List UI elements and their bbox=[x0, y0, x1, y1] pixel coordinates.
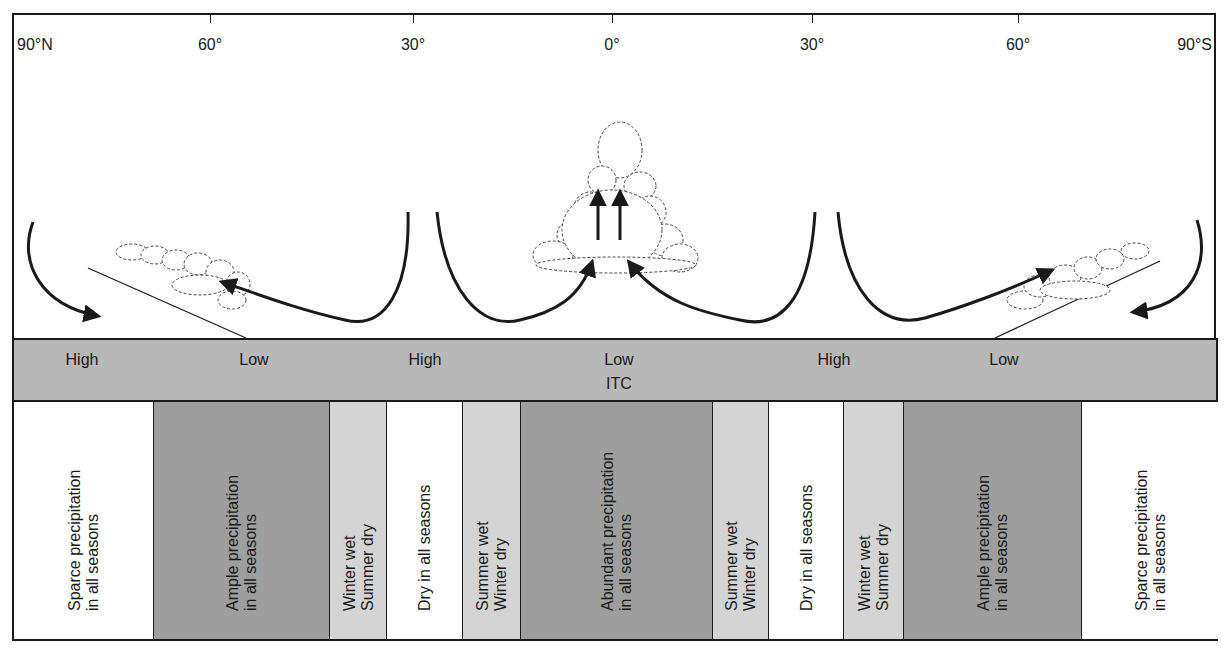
zone-label-line: Abundant precipitation bbox=[599, 452, 617, 611]
circulation-diagram bbox=[0, 0, 1230, 340]
precipitation-zone: Winter wetSummer dry bbox=[844, 402, 904, 639]
zone-label: Summer wetWinter dry bbox=[723, 521, 759, 611]
precipitation-zone: Sparce precipitationin all seasons bbox=[14, 402, 154, 639]
zone-label-line: Summer wet bbox=[723, 521, 741, 611]
zone-label-line: Ample precipitation bbox=[975, 475, 993, 611]
precipitation-zone: Sparce precipitationin all seasons bbox=[1082, 402, 1220, 639]
zone-label-line: Winter dry bbox=[492, 521, 510, 611]
zone-label: Ample precipitationin all seasons bbox=[975, 475, 1011, 611]
zone-label-line: in all seasons bbox=[993, 475, 1011, 611]
precipitation-zone: Summer wetWinter dry bbox=[713, 402, 769, 639]
zone-label: Summer wetWinter dry bbox=[474, 521, 510, 611]
zone-label: Ample precipitationin all seasons bbox=[224, 475, 260, 611]
pressure-label-high: High bbox=[818, 351, 851, 369]
zone-label-line: Summer wet bbox=[474, 521, 492, 611]
pressure-label-low: Low bbox=[989, 351, 1018, 369]
itc-label: ITC bbox=[606, 375, 632, 393]
zone-label-line: Sparce precipitation bbox=[66, 470, 84, 611]
precipitation-zone: Ample precipitationin all seasons bbox=[904, 402, 1082, 639]
pressure-label-high: High bbox=[66, 351, 99, 369]
zone-label-line: Winter dry bbox=[741, 521, 759, 611]
zone-label-line: Winter wet bbox=[856, 524, 874, 611]
zone-label-line: in all seasons bbox=[84, 470, 102, 611]
precipitation-zones: Sparce precipitationin all seasonsAmple … bbox=[12, 402, 1218, 641]
zone-label-line: Sparce precipitation bbox=[1133, 470, 1151, 611]
precipitation-zone: Winter wetSummer dry bbox=[330, 402, 387, 639]
pressure-belt-band: HighLowHighLowHighLowITC bbox=[12, 338, 1218, 402]
precipitation-zone: Dry in all seasons bbox=[769, 402, 844, 639]
zone-label: Abundant precipitationin all seasons bbox=[599, 452, 635, 611]
pressure-label-low: Low bbox=[239, 351, 268, 369]
zone-label: Winter wetSummer dry bbox=[856, 524, 892, 611]
zone-label: Sparce precipitationin all seasons bbox=[1133, 470, 1169, 611]
precipitation-zone: Summer wetWinter dry bbox=[463, 402, 521, 639]
cloud-icon bbox=[116, 122, 1149, 309]
zone-label-line: Dry in all seasons bbox=[798, 485, 816, 611]
precipitation-zone: Ample precipitationin all seasons bbox=[154, 402, 330, 639]
zone-label-line: Summer dry bbox=[874, 524, 892, 611]
zone-label-line: Dry in all seasons bbox=[416, 485, 434, 611]
zone-label: Dry in all seasons bbox=[798, 485, 816, 611]
zone-label: Dry in all seasons bbox=[416, 485, 434, 611]
zone-label-line: in all seasons bbox=[617, 452, 635, 611]
precipitation-zone: Abundant precipitationin all seasons bbox=[521, 402, 713, 639]
precipitation-zone: Dry in all seasons bbox=[387, 402, 463, 639]
zone-label: Winter wetSummer dry bbox=[341, 524, 377, 611]
zone-label-line: in all seasons bbox=[1151, 470, 1169, 611]
pressure-label-low: Low bbox=[604, 351, 633, 369]
zone-label-line: Winter wet bbox=[341, 524, 359, 611]
zone-label-line: Ample precipitation bbox=[224, 475, 242, 611]
zone-label-line: in all seasons bbox=[242, 475, 260, 611]
zone-label-line: Summer dry bbox=[359, 524, 377, 611]
zone-label: Sparce precipitationin all seasons bbox=[66, 470, 102, 611]
pressure-label-high: High bbox=[409, 351, 442, 369]
